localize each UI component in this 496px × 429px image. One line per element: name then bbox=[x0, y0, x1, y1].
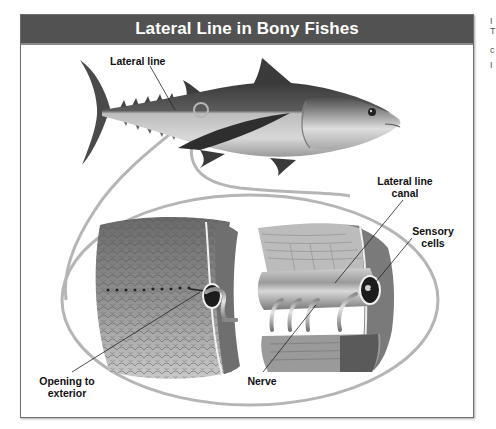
edge-fragment: I bbox=[490, 16, 493, 26]
tuna-fish-illustration bbox=[80, 58, 401, 176]
label-sensory-cells: Sensory cells bbox=[408, 225, 458, 249]
label-opening-to-exterior-line2: exterior bbox=[34, 387, 100, 399]
label-nerve: Nerve bbox=[240, 375, 284, 387]
label-sensory-cells-line2: cells bbox=[408, 237, 458, 249]
edge-fragment: c bbox=[490, 45, 495, 55]
label-sensory-cells-line1: Sensory bbox=[408, 225, 458, 237]
label-lateral-line-canal-line1: Lateral line bbox=[370, 175, 440, 187]
label-opening-to-exterior: Opening to exterior bbox=[34, 375, 100, 399]
lateral-line-canal-section bbox=[255, 223, 394, 372]
label-lateral-line-canal: Lateral line canal bbox=[370, 175, 440, 199]
label-lateral-line-canal-line2: canal bbox=[370, 187, 440, 199]
skin-scales-section bbox=[96, 217, 240, 379]
edge-fragment: I bbox=[490, 60, 493, 70]
label-opening-to-exterior-line1: Opening to bbox=[34, 375, 100, 387]
label-lateral-line: Lateral line bbox=[110, 55, 165, 67]
edge-fragment: T bbox=[490, 26, 496, 36]
